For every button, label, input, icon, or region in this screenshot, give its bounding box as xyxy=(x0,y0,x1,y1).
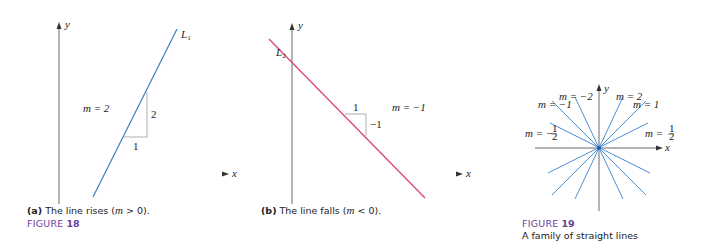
run-label: 1 xyxy=(353,101,359,113)
rise-label: −1 xyxy=(370,118,382,130)
family-of-lines-graph: y x m = −2 m = −1 m = − 1 2 m = 2 m = 1 … xyxy=(525,82,675,211)
label-m-poshalf: m = xyxy=(645,127,663,139)
label-m-pos1: m = 1 xyxy=(633,98,659,110)
line-label-L1: L1 xyxy=(180,28,191,42)
svg-text:2: 2 xyxy=(552,130,558,142)
run-label: 1 xyxy=(133,140,139,152)
figure-number: 18 xyxy=(66,218,79,229)
figure-word: FIGURE xyxy=(27,218,63,229)
y-axis-arrow-icon xyxy=(290,23,295,30)
slope-triangle xyxy=(124,92,147,137)
y-axis-label: y xyxy=(64,18,70,30)
y-axis-arrow-icon xyxy=(57,22,62,29)
x-axis-arrow-icon xyxy=(456,172,463,177)
caption-panel-a: (a) The line rises (m > 0). xyxy=(27,204,150,216)
figure-word: FIGURE xyxy=(522,218,558,229)
x-axis-arrow-icon xyxy=(656,146,663,151)
caption-math: m xyxy=(115,204,123,216)
y-axis-label: y xyxy=(603,82,609,94)
figure-number: 19 xyxy=(561,218,574,229)
slope-label: m = −1 xyxy=(392,101,426,113)
figure-19-description: A family of straight lines xyxy=(522,230,638,241)
label-m-neg1: m = −1 xyxy=(538,98,572,110)
svg-text:2: 2 xyxy=(669,130,675,142)
figure-18-label: FIGURE 18 xyxy=(27,218,80,229)
caption-text: The line rises ( xyxy=(42,205,115,216)
caption-letter: (a) xyxy=(27,205,42,216)
fraction-pos-half: 1 2 xyxy=(668,122,675,142)
caption-letter: (b) xyxy=(261,205,276,216)
panel-a-graph: y x L1 1 2 m = 2 xyxy=(27,18,237,204)
line-label-L2: L2 xyxy=(275,46,286,60)
x-axis-label: x xyxy=(231,167,237,179)
x-axis-arrow-icon xyxy=(222,172,229,177)
origin-point xyxy=(597,146,601,150)
label-m-neghalf: m = − xyxy=(525,127,553,139)
y-axis-label: y xyxy=(297,19,303,31)
caption-text: The line falls ( xyxy=(276,205,346,216)
caption-rest: > 0). xyxy=(123,205,150,216)
y-axis-arrow-icon xyxy=(597,84,602,91)
caption-panel-b: (b) The line falls (m < 0). xyxy=(261,204,381,216)
slope-label: m = 2 xyxy=(83,102,110,114)
figure-19-label: FIGURE 19 xyxy=(522,218,575,229)
x-axis-label: x xyxy=(664,141,670,153)
slope-triangle xyxy=(345,114,366,136)
panel-b-graph: y x L2 1 −1 m = −1 xyxy=(261,19,471,204)
rise-label: 2 xyxy=(151,108,157,120)
caption-rest: < 0). xyxy=(354,205,381,216)
fraction-neg-half: 1 2 xyxy=(551,122,558,142)
x-axis-label: x xyxy=(465,167,471,179)
